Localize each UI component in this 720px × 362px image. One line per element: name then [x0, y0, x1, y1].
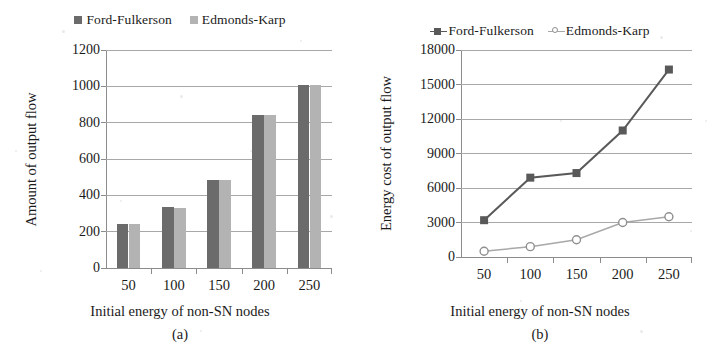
y-tick-label-a-200: 200 — [79, 224, 100, 240]
x-tick-mark-a-100 — [151, 268, 152, 274]
line-square-marker-icon — [430, 26, 447, 36]
scan-speck-7 — [40, 270, 42, 272]
y-tick-label-a-600: 600 — [79, 151, 100, 167]
figure-root: Ford-Fulkerson Edmonds-Karp Amount of ou… — [0, 0, 720, 362]
panel-b: Ford-Fulkerson Edmonds-Karp Energy cost … — [360, 0, 720, 362]
y-tick-label-b-9000: 9000 — [427, 146, 455, 162]
bar-edmonds-karp-150 — [219, 180, 231, 268]
y-axis-title-b-text: Energy cost of output flow — [379, 75, 396, 230]
y-tick-label-b-12000: 12000 — [420, 111, 455, 127]
scan-speck-4 — [250, 150, 252, 152]
scan-speck-14 — [520, 300, 522, 302]
y-tick-mark-a-1000 — [101, 86, 106, 87]
bar-ford-fulkerson-100 — [162, 207, 174, 268]
gridline-a-1200 — [106, 50, 332, 51]
legend-a: Ford-Fulkerson Edmonds-Karp — [0, 12, 360, 28]
scan-speck-5 — [120, 200, 122, 202]
legend-label-ford-fulkerson-b: Ford-Fulkerson — [448, 23, 533, 39]
bar-ford-fulkerson-150 — [207, 180, 219, 268]
y-tick-mark-a-600 — [101, 159, 106, 160]
legend-label-edmonds-karp-b: Edmonds-Karp — [566, 23, 650, 39]
bar-edmonds-karp-200 — [264, 115, 276, 269]
x-tick-mark-a-150 — [196, 268, 197, 274]
scan-speck-1 — [300, 40, 302, 42]
x-tick-label-b-250: 250 — [658, 266, 680, 283]
y-tick-mark-a-200 — [101, 231, 106, 232]
data-point-edmonds-karp-50 — [480, 247, 488, 255]
y-tick-label-a-400: 400 — [79, 187, 100, 203]
plot-area-b: 0300060009000120001500018000501001502002… — [461, 50, 692, 257]
y-tick-label-b-6000: 6000 — [427, 180, 455, 196]
panel-a: Ford-Fulkerson Edmonds-Karp Amount of ou… — [0, 0, 360, 362]
x-tick-mark-a-250 — [287, 268, 288, 274]
scan-speck-6 — [330, 215, 333, 218]
y-tick-mark-a-0 — [101, 268, 106, 269]
line-circle-marker-icon — [548, 26, 565, 36]
data-point-edmonds-karp-150 — [573, 236, 581, 244]
scan-speck-11 — [560, 120, 562, 122]
data-point-edmonds-karp-100 — [526, 243, 534, 251]
scan-speck-8 — [200, 330, 202, 332]
y-tick-label-a-0: 0 — [93, 260, 100, 276]
y-axis-title-b: Energy cost of output flow — [378, 47, 396, 259]
x-tick-label-a-150: 150 — [208, 277, 230, 294]
y-tick-mark-a-1200 — [101, 50, 106, 51]
y-tick-label-a-1000: 1000 — [72, 78, 100, 94]
x-tick-label-b-150: 150 — [566, 266, 588, 283]
x-tick-mark-b-end — [691, 257, 692, 263]
y-tick-label-b-0: 0 — [448, 249, 455, 265]
x-axis-title-a: Initial energy of non-SN nodes — [0, 303, 360, 320]
data-point-edmonds-karp-200 — [619, 219, 627, 227]
scan-speck-13 — [690, 230, 692, 232]
legend-item-ford-fulkerson-b: Ford-Fulkerson — [430, 23, 533, 39]
data-point-ford-fulkerson-150 — [573, 169, 581, 177]
square-light-icon — [190, 16, 198, 24]
x-tick-label-a-250: 250 — [299, 277, 321, 294]
x-tick-mark-b-250 — [646, 257, 647, 263]
data-point-ford-fulkerson-50 — [480, 216, 488, 224]
y-tick-mark-a-400 — [101, 195, 106, 196]
scan-speck-12 — [430, 180, 432, 182]
bar-ford-fulkerson-250 — [298, 85, 310, 268]
y-tick-label-b-18000: 18000 — [420, 42, 455, 58]
legend-item-edmonds-karp-b: Edmonds-Karp — [548, 23, 650, 39]
bar-edmonds-karp-100 — [174, 208, 186, 268]
x-tick-mark-a-end — [331, 268, 332, 274]
scan-speck-0 — [62, 30, 65, 33]
bar-edmonds-karp-250 — [310, 85, 322, 268]
caption-a: (a) — [0, 326, 360, 343]
y-tick-label-b-3000: 3000 — [427, 215, 455, 231]
x-tick-label-a-50: 50 — [121, 277, 136, 294]
x-tick-label-b-200: 200 — [612, 266, 634, 283]
x-tick-mark-a-200 — [242, 268, 243, 274]
scan-speck-16 — [15, 150, 17, 152]
series-line-edmonds-karp — [484, 217, 669, 252]
scan-speck-15 — [640, 330, 643, 333]
x-tick-mark-b-200 — [600, 257, 601, 263]
data-point-edmonds-karp-250 — [665, 213, 673, 221]
x-tick-label-b-50: 50 — [477, 266, 492, 283]
square-dark-icon — [74, 16, 82, 24]
y-tick-label-b-15000: 15000 — [420, 77, 455, 93]
y-tick-mark-a-800 — [101, 122, 106, 123]
legend-label-edmonds-karp-a: Edmonds-Karp — [202, 12, 286, 28]
x-tick-mark-b-150 — [553, 257, 554, 263]
scan-speck-2 — [96, 118, 98, 120]
y-axis-title-a-text: Amount of output flow — [23, 92, 40, 226]
y-tick-label-a-1200: 1200 — [72, 42, 100, 58]
legend-b: Ford-Fulkerson Edmonds-Karp — [360, 23, 720, 39]
scan-speck-10 — [660, 36, 663, 39]
data-point-ford-fulkerson-250 — [665, 66, 673, 74]
x-tick-label-b-100: 100 — [519, 266, 541, 283]
legend-item-edmonds-karp-a: Edmonds-Karp — [190, 12, 286, 28]
x-tick-label-a-200: 200 — [253, 277, 275, 294]
legend-label-ford-fulkerson-a: Ford-Fulkerson — [86, 12, 171, 28]
y-axis-title-a: Amount of output flow — [22, 50, 40, 268]
caption-b: (b) — [360, 326, 720, 343]
plot-area-a: 02004006008001000120050100150200250 — [106, 50, 332, 268]
x-tick-label-a-100: 100 — [163, 277, 185, 294]
x-axis-title-b: Initial energy of non-SN nodes — [360, 303, 720, 320]
data-point-ford-fulkerson-200 — [619, 127, 627, 135]
data-point-ford-fulkerson-100 — [526, 174, 534, 182]
scan-speck-17 — [705, 120, 707, 122]
